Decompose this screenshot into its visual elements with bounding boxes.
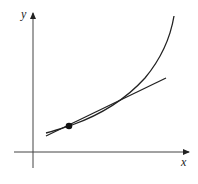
tangent-point — [66, 123, 73, 130]
tangent-line — [46, 78, 166, 136]
y-axis-label: y — [20, 7, 27, 21]
tangent-diagram: y x — [0, 0, 198, 184]
function-curve — [46, 16, 174, 133]
x-axis-label: x — [180, 155, 187, 169]
